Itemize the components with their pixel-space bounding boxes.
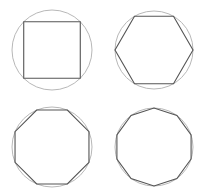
circumscribed-circle bbox=[12, 107, 92, 187]
decagon-panel bbox=[115, 108, 193, 186]
octagon-shape bbox=[15, 110, 89, 184]
hexagon-shape bbox=[115, 16, 193, 84]
octagon-panel bbox=[12, 107, 92, 187]
circumscribed-circle bbox=[115, 11, 193, 89]
square-panel bbox=[12, 10, 92, 90]
hexagon-panel bbox=[115, 11, 193, 89]
decagon-shape bbox=[117, 108, 191, 186]
polygon-diagram bbox=[0, 0, 204, 193]
circumscribed-circle bbox=[115, 108, 193, 186]
square-shape bbox=[24, 22, 81, 79]
